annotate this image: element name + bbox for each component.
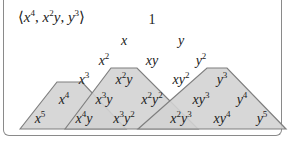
monomial-x: x <box>121 34 127 48</box>
monomial-x2y3: x2y3 <box>170 112 191 126</box>
monomial-y: y <box>178 34 184 48</box>
monomial-x3y2: x3y2 <box>113 112 134 126</box>
gen-y3-base: y <box>68 9 75 25</box>
monomial-x4y: x4y <box>76 112 93 126</box>
monomial-x2y2: x2y2 <box>141 93 162 107</box>
monomial-xy4: xy4 <box>214 112 231 126</box>
monomial-xy2: xy2 <box>173 73 190 87</box>
monomial-y5: y5 <box>257 112 268 126</box>
monomial-y4: y4 <box>237 93 248 107</box>
ideal-label: ⟨x4, x2y, y3⟩ <box>18 8 85 26</box>
monomial-x5: x5 <box>35 112 46 126</box>
right-angle-bracket: ⟩ <box>79 9 85 25</box>
separator: , <box>60 9 68 25</box>
monomial-x4: x4 <box>59 93 70 107</box>
monomial-xy3: xy3 <box>193 93 210 107</box>
monomial-x2y: x2y <box>116 73 133 87</box>
monomial-xy: xy <box>146 54 158 68</box>
separator: , <box>35 9 43 25</box>
monomial-x3y: x3y <box>96 93 113 107</box>
monomial-x2: x2 <box>99 54 110 68</box>
monomial-y3: y3 <box>217 73 228 87</box>
monomial-y2: y2 <box>196 54 207 68</box>
monomial-x3: x3 <box>79 73 90 87</box>
monomial-1: 1 <box>149 13 156 27</box>
gen-x4-base: x <box>24 9 31 25</box>
